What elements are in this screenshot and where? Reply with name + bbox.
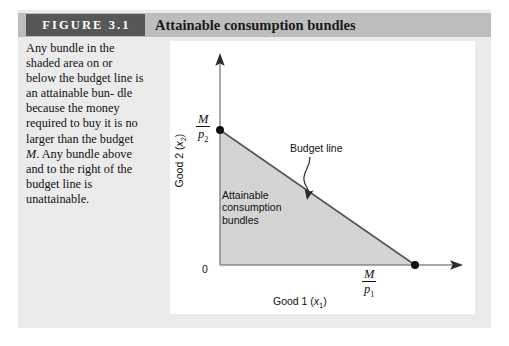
budget-line-annotation: Budget line [290,142,343,154]
caption-line-1: Any bundle in the [26,41,114,55]
x-axis-title: Good 1 (x1) [273,295,327,310]
caption-line-12: unattainable. [26,192,89,206]
attainable-annotation-line-3: bundles [222,214,282,226]
x-intercept-point [411,261,419,269]
attainable-region-annotation: Attainable consumption bundles [222,189,282,226]
caption-line-8-pre: than the budget [58,132,134,146]
y-intercept-label: M p2 [196,113,210,144]
chart-panel: M p2 M p1 0 Budget line Attainable consu… [170,41,475,314]
y-axis-title: Good 2 (x2) [173,134,188,188]
origin-label: 0 [202,263,208,275]
y-intercept-point [216,126,224,134]
x-intercept-label: M p1 [362,268,376,299]
x-intercept-numerator: M [362,268,376,281]
budget-line-chart [170,41,475,314]
y-intercept-denominator: p2 [196,128,210,144]
figure-number-tag: FIGURE 3.1 [26,14,145,36]
caption-line-8-post: . [36,147,39,161]
figure-caption: Any bundle in the shaded area on or belo… [26,41,144,207]
caption-line-10: and to the right of [26,162,114,176]
budget-line-leader-curve [304,157,310,192]
y-intercept-numerator: M [196,113,210,126]
figure-title: Attainable consumption bundles [155,14,356,36]
caption-line-3: below the budget line [26,71,132,85]
caption-budget-symbol: M [26,147,36,161]
caption-line-9: Any bundle above [42,147,132,161]
figure-root: FIGURE 3.1 Attainable consumption bundle… [0,0,509,346]
x-intercept-denominator: p1 [362,283,376,299]
caption-line-2: shaded area on or [26,56,112,70]
attainable-annotation-line-2: consumption [222,201,282,213]
attainable-annotation-line-1: Attainable [222,189,282,201]
